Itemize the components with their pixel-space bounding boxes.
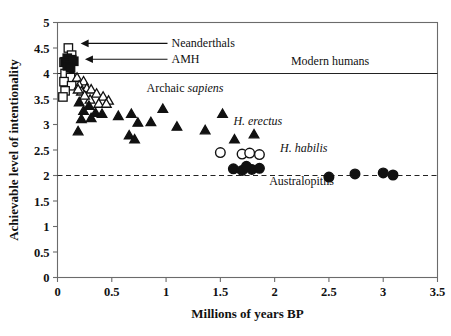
x-tick-label-0: 0 (54, 285, 60, 299)
annotation-h-habilis: H. habilis (279, 141, 328, 155)
y-tick-label-3.5: 3.5 (34, 93, 50, 107)
annotation-australopiths: Australopiths (269, 174, 334, 188)
annotation-neanderthals: Neanderthals (172, 36, 236, 50)
x-tick-label-1: 1 (163, 285, 169, 299)
y-tick-label-1.5: 1.5 (34, 195, 50, 209)
y-tick-label-0: 0 (43, 271, 49, 285)
marker-filled-circle (255, 164, 265, 174)
marker-filled-circle (229, 164, 239, 174)
x-axis-title: Millions of years BP (191, 306, 303, 321)
marker-filled-circle (378, 168, 388, 178)
y-axis-title: Achievable level of intentionality (6, 59, 21, 241)
marker-open-circle (216, 148, 226, 158)
y-tick-label-4: 4 (43, 67, 50, 81)
marker-open-square (59, 93, 67, 101)
y-tick-label-1: 1 (43, 220, 49, 234)
marker-filled-circle (350, 169, 360, 179)
marker-filled-circle (388, 170, 398, 180)
annotation-modern-humans: Modern humans (291, 54, 370, 68)
x-tick-label-0.5: 0.5 (104, 285, 120, 299)
y-tick-label-2.5: 2.5 (34, 144, 50, 158)
x-tick-label-1.5: 1.5 (213, 285, 229, 299)
chart-figure: 00.511.522.533.544.5500.511.522.533.5Nea… (0, 0, 451, 336)
y-tick-label-3: 3 (43, 118, 49, 132)
y-tick-label-2: 2 (43, 169, 49, 183)
x-tick-label-3: 3 (380, 285, 386, 299)
marker-filled-square (66, 64, 74, 72)
y-tick-label-4.5: 4.5 (34, 42, 50, 56)
marker-open-circle (245, 148, 255, 158)
marker-filled-circle (242, 162, 252, 172)
marker-open-circle (255, 150, 265, 160)
annotation-h-erectus: H. erectus (232, 114, 282, 128)
y-tick-label-0.5: 0.5 (34, 246, 50, 260)
y-tick-label-5: 5 (43, 16, 49, 30)
x-tick-label-2: 2 (272, 285, 278, 299)
x-tick-label-2.5: 2.5 (321, 285, 337, 299)
annotation-amh: AMH (172, 52, 200, 66)
annotation-archaic-sapiens: Archaic sapiens (147, 81, 224, 95)
scatter-plot: 00.511.522.533.544.5500.511.522.533.5Nea… (0, 0, 451, 336)
x-tick-label-3.5: 3.5 (430, 285, 446, 299)
